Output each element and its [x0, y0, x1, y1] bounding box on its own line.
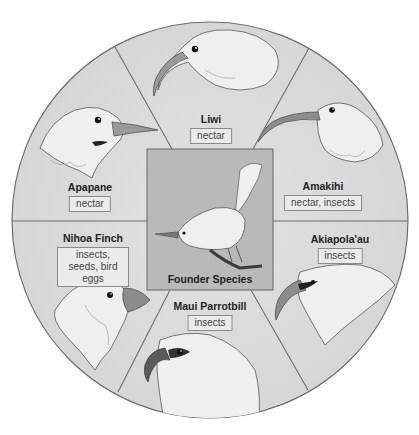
diet-box: nectar: [190, 128, 232, 144]
species-label-nihoa-finch: Nihoa Finch insects, seeds, bird eggs: [57, 232, 129, 287]
diet-box: insects: [187, 315, 232, 331]
diet-box: nectar, insects: [284, 195, 362, 211]
species-name: Liwi: [190, 113, 232, 125]
species-name: Apapane: [68, 181, 112, 193]
species-label-apapane: Apapane nectar: [68, 181, 112, 212]
radiation-diagram: [0, 0, 419, 435]
species-label-akiapolaau: Akiapola'au insects: [311, 233, 370, 264]
species-label-maui-parrotbill: Maui Parrotbill insects: [174, 300, 247, 331]
species-name: Amakihi: [284, 180, 362, 192]
diet-box: nectar: [69, 196, 111, 212]
species-name: Maui Parrotbill: [174, 300, 247, 312]
species-name: Akiapola'au: [311, 233, 370, 245]
founder-species-label: Founder Species: [168, 273, 253, 285]
species-label-liwi: Liwi nectar: [190, 113, 232, 144]
species-name: Nihoa Finch: [57, 232, 129, 244]
diet-box: insects, seeds, bird eggs: [57, 247, 129, 287]
diet-box: insects: [317, 248, 362, 264]
species-label-amakihi: Amakihi nectar, insects: [284, 180, 362, 211]
